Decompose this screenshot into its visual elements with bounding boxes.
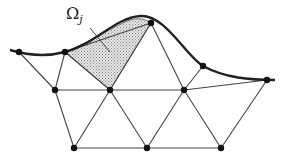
omega-symbol: Ω (66, 4, 79, 23)
omega-subscript: j (79, 13, 82, 26)
triangulated-mesh-diagram (0, 0, 285, 156)
omega-j-label: Ωj (66, 4, 83, 26)
mesh-edges (19, 23, 267, 148)
